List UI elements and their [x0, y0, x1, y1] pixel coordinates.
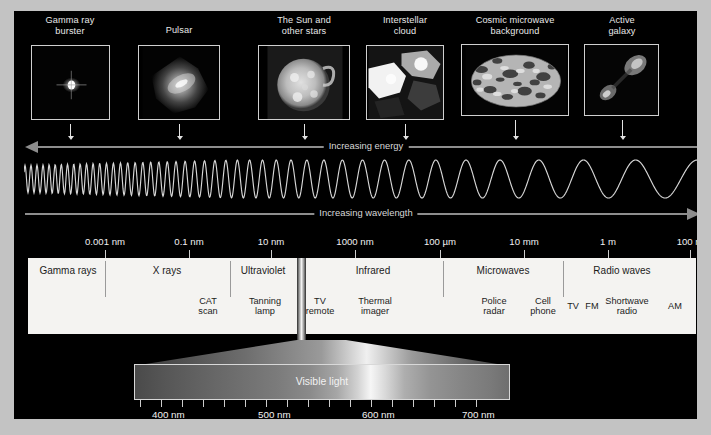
down-arrow-the-sun-and-other-stars [304, 124, 305, 136]
app-line1: Shortwave [605, 296, 648, 306]
band-label-radio-waves: Radio waves [593, 265, 650, 276]
app-line2: radar [481, 306, 506, 316]
scale-label-1: 0.1 nm [174, 236, 203, 247]
app-line1: FM [585, 301, 598, 311]
source-thumbnail-cosmic-microwave-background [461, 44, 569, 116]
app-line1: Tanning [249, 296, 281, 306]
source-caption-interstellar-cloud: Interstellarcloud [345, 15, 465, 36]
app-line1: CAT [198, 296, 217, 306]
down-arrow-active-galaxy [622, 120, 623, 136]
increasing-energy-label: Increasing energy [324, 140, 409, 151]
mount-top [0, 0, 711, 11]
visible-minor-tick-5 [245, 400, 246, 407]
band-label-gamma-rays: Gamma rays [39, 265, 96, 276]
band-divider-1 [230, 261, 231, 297]
app-line1: TV [306, 296, 335, 306]
visible-minor-tick-15 [455, 400, 456, 407]
the-sun-and-other-stars-art [259, 46, 349, 119]
visible-minor-tick-3 [203, 400, 204, 407]
visible-light-column [297, 258, 306, 344]
app-line2: imager [358, 306, 392, 316]
pulsar-art [139, 46, 219, 119]
application-tanning-lamp: Tanninglamp [249, 296, 281, 317]
visible-minor-tick-14 [434, 400, 435, 407]
application-am: AM [668, 301, 682, 311]
down-arrow-pulsar [179, 124, 180, 136]
scale-label-3: 1000 nm [336, 236, 373, 247]
application-cat-scan: CATscan [198, 296, 217, 317]
scale-label-4: 100 µm [424, 236, 456, 247]
caption-line2: background [455, 26, 575, 37]
visible-minor-tick-12 [392, 400, 393, 407]
source-thumbnail-interstellar-cloud [366, 45, 444, 120]
source-thumbnail-gamma-ray-burster [31, 45, 110, 120]
mount-left [0, 0, 14, 435]
caption-line1: Cosmic microwave [455, 15, 575, 26]
caption-line1: Interstellar [345, 15, 465, 26]
caption-line2: galaxy [562, 26, 682, 37]
scale-label-2: 10 nm [258, 236, 285, 247]
application-tv-remote: TVremote [306, 296, 335, 317]
visible-minor-tick-2 [182, 400, 183, 407]
visible-minor-tick-0 [140, 400, 141, 407]
interstellar-cloud-art [367, 46, 443, 119]
application-cell-phone: Cellphone [530, 296, 556, 317]
mount-right [697, 0, 711, 435]
wave-diagram [24, 152, 700, 206]
active-galaxy-art [585, 45, 658, 115]
down-arrow-interstellar-cloud [405, 124, 406, 136]
band-label-microwaves: Microwaves [477, 265, 530, 276]
caption-line1: Gamma ray [10, 15, 130, 26]
scale-label-5: 10 mm [509, 236, 538, 247]
visible-minor-tick-4 [224, 400, 225, 407]
source-thumbnail-active-galaxy [584, 44, 659, 116]
caption-line2: cloud [345, 26, 465, 37]
app-line2: phone [530, 306, 556, 316]
source-caption-pulsar: Pulsar [119, 25, 239, 36]
mount-bottom [0, 419, 711, 435]
caption-line1: Active [562, 15, 682, 26]
app-line1: Police [481, 296, 506, 306]
source-caption-active-galaxy: Activegalaxy [562, 15, 682, 36]
visible-minor-tick-13 [413, 400, 414, 407]
app-line2: remote [306, 306, 335, 316]
sinusoid-svg [24, 152, 700, 206]
visible-minor-tick-7 [287, 400, 288, 407]
application-police-radar: Policeradar [481, 296, 506, 317]
scale-label-6: 1 m [600, 236, 616, 247]
app-line2: lamp [249, 306, 281, 316]
cosmic-microwave-background-art [462, 45, 568, 115]
app-line1: Thermal [358, 296, 392, 306]
caption-line2: burster [10, 26, 130, 37]
band-divider-0 [105, 261, 106, 297]
scale-label-0: 0.001 nm [85, 236, 125, 247]
increasing-wavelength-label: Increasing wavelength [314, 207, 417, 218]
visible-minor-tick-10 [350, 400, 351, 407]
visible-minor-tick-6 [266, 400, 267, 407]
visible-minor-tick-11 [371, 400, 372, 407]
band-label-x-rays: X rays [153, 265, 181, 276]
application-tv: TV [567, 301, 579, 311]
band-divider-3 [563, 261, 564, 297]
app-line1: AM [668, 301, 682, 311]
app-line2: scan [198, 306, 217, 316]
caption-line1: Pulsar [119, 25, 239, 36]
band-label-infrared: Infrared [356, 265, 390, 276]
band-divider-2 [443, 261, 444, 297]
source-thumbnail-pulsar [138, 45, 220, 120]
visible-minor-tick-9 [329, 400, 330, 407]
down-arrow-cosmic-microwave-background [515, 120, 516, 136]
app-line2: radio [605, 306, 648, 316]
source-thumbnail-the-sun-and-other-stars [258, 45, 350, 120]
app-line1: TV [567, 301, 579, 311]
visible-minor-tick-8 [308, 400, 309, 407]
gamma-ray-burster-art [32, 46, 109, 119]
band-label-ultraviolet: Ultraviolet [241, 265, 285, 276]
electromagnetic-spectrum-figure: Gamma rayburster Pulsar The Sun andother… [0, 0, 711, 435]
visible-minor-tick-1 [161, 400, 162, 407]
application-fm: FM [585, 301, 598, 311]
visible-minor-tick-16 [476, 400, 477, 407]
flare-svg [133, 340, 510, 366]
visible-light-flare [133, 340, 510, 366]
source-caption-cosmic-microwave-background: Cosmic microwavebackground [455, 15, 575, 36]
